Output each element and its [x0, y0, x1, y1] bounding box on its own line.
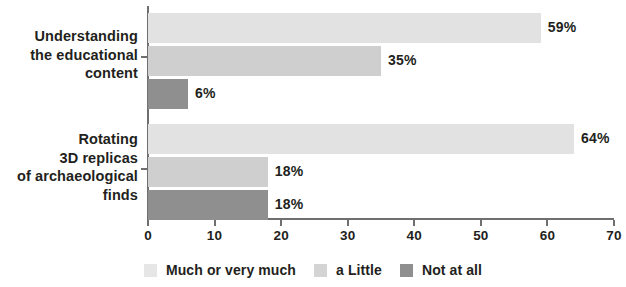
chart-legend: Much or very much a Little Not at all — [0, 258, 626, 282]
x-tick-label: 60 — [527, 228, 567, 243]
bar-1-1 — [148, 157, 268, 187]
bar-value-label: 18% — [275, 196, 304, 212]
x-tick-mark — [347, 220, 349, 226]
bar-2-1 — [148, 190, 268, 220]
x-tick-label: 40 — [394, 228, 434, 243]
bar-value-label: 59% — [548, 19, 577, 35]
x-tick-mark — [214, 220, 216, 226]
x-tick-label: 20 — [261, 228, 301, 243]
category-tick — [141, 168, 148, 170]
x-tick-label: 30 — [328, 228, 368, 243]
x-tick-label: 10 — [195, 228, 235, 243]
bar-1-0 — [148, 46, 381, 76]
bar-value-label: 64% — [581, 130, 610, 146]
x-tick-mark — [413, 220, 415, 226]
bar-value-label: 6% — [195, 85, 216, 101]
legend-swatch-icon — [400, 264, 413, 277]
legend-label: Much or very much — [166, 262, 296, 278]
legend-swatch-icon — [314, 264, 327, 277]
bar-0-0 — [148, 13, 541, 43]
x-tick-mark — [147, 220, 149, 226]
legend-item-much-or-very-much[interactable]: Much or very much — [144, 262, 296, 278]
bar-value-label: 35% — [388, 52, 417, 68]
x-tick-mark — [546, 220, 548, 226]
x-tick-label: 0 — [128, 228, 168, 243]
bar-2-0 — [148, 79, 188, 109]
legend-label: a Little — [336, 262, 382, 278]
category-label-rotating: Rotating 3D replicas of archaeological f… — [0, 130, 138, 204]
bar-chart: Understanding the educational content Ro… — [0, 0, 626, 287]
legend-swatch-icon — [144, 264, 157, 277]
legend-item-not-at-all[interactable]: Not at all — [400, 262, 482, 278]
legend-item-a-little[interactable]: a Little — [314, 262, 382, 278]
x-tick-mark — [480, 220, 482, 226]
x-tick-mark — [280, 220, 282, 226]
bar-value-label: 18% — [275, 163, 304, 179]
category-tick — [141, 56, 148, 58]
bar-0-1 — [148, 124, 574, 154]
x-tick-mark — [613, 220, 615, 226]
legend-label: Not at all — [422, 262, 482, 278]
x-tick-label: 50 — [461, 228, 501, 243]
category-label-understanding: Understanding the educational content — [0, 27, 138, 83]
x-tick-label: 70 — [594, 228, 626, 243]
